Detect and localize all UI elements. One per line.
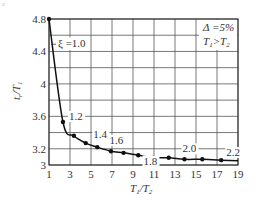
x-tick-label: 11 [149, 168, 160, 180]
point-label: 1.6 [110, 134, 124, 146]
point-label: 1.4 [93, 128, 107, 140]
y-tick-label: 4.8 [32, 13, 46, 25]
corner-mark: a [2, 1, 5, 7]
x-tick-label: 17 [212, 168, 224, 180]
data-point [95, 145, 99, 149]
y-tick-label: 4.4 [32, 45, 46, 57]
x-tick-label: 3 [67, 168, 73, 180]
point-label: 2.2 [226, 146, 240, 158]
data-point [167, 156, 171, 160]
x-tick-label: 1 [46, 168, 52, 180]
chart: 4.84.443.63.23 135791113151719 ξ =1.01.2… [0, 0, 259, 209]
data-point [47, 17, 51, 21]
point-label: 1.2 [69, 110, 83, 122]
x-tick-label: 5 [88, 168, 94, 180]
x-tick-label: 13 [170, 168, 182, 180]
annotation-condition: T1>T2 [203, 35, 230, 49]
y-tick-label: 4 [41, 78, 47, 90]
data-point [121, 151, 125, 155]
point-labels: ξ =1.01.21.41.61.82.02.2 [51, 37, 242, 166]
point-label: 1.8 [143, 155, 157, 167]
y-tick-label: 3.2 [32, 143, 46, 155]
x-tick-label: 15 [191, 168, 203, 180]
data-point [136, 153, 140, 157]
x-tick-label: 9 [130, 168, 136, 180]
data-point [200, 157, 204, 161]
point-label: 2.0 [182, 142, 196, 154]
data-point [72, 134, 76, 138]
annotation-box: Δ =5% T1>T2 [199, 20, 237, 50]
annotation-delta: Δ =5% [202, 21, 234, 33]
data-point [84, 141, 88, 145]
data-point [219, 158, 223, 162]
y-axis-label: tr/T1 [10, 82, 24, 100]
y-axis-ticks: 4.84.443.63.23 [32, 13, 46, 171]
data-point [61, 120, 65, 124]
y-tick-label: 3.6 [32, 110, 46, 122]
x-tick-label: 19 [233, 168, 245, 180]
data-point [182, 157, 186, 161]
plot-area: 4.84.443.63.23 135791113151719 ξ =1.01.2… [0, 0, 259, 209]
x-axis-ticks: 135791113151719 [46, 168, 244, 180]
data-point [109, 149, 113, 153]
point-label: ξ =1.0 [58, 37, 86, 50]
x-tick-label: 7 [109, 168, 115, 180]
x-axis-label: T1/T2 [130, 182, 153, 196]
